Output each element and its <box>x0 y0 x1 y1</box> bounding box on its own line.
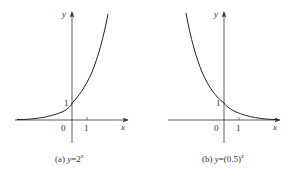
graph-a: y x 0 1 1 <box>15 9 128 143</box>
x-tick-label-b: 1 <box>236 123 241 133</box>
y-axis-label-a: y <box>61 9 66 19</box>
curve-exp-decay <box>186 13 278 120</box>
x-tick-label-a: 1 <box>84 123 89 133</box>
x-axis-label-a: x <box>120 122 125 132</box>
caption-b-exp: x <box>241 153 244 159</box>
origin-label-a: 0 <box>61 123 66 133</box>
caption-a-exp: x <box>81 153 84 159</box>
x-axis-label-b: x <box>272 122 277 132</box>
figure-canvas: y x 0 1 1 y x 0 1 1 <box>0 0 289 182</box>
y-intercept-label-b: 1 <box>216 98 221 108</box>
graph-b: y x 0 1 1 <box>168 9 280 143</box>
caption-a-prefix: (a) <box>55 154 67 164</box>
caption-b-prefix: (b) <box>202 154 215 164</box>
origin-label-b: 0 <box>214 123 219 133</box>
caption-b: (b) y=(0.5)x <box>202 153 244 164</box>
curve-exp-growth <box>17 14 108 120</box>
caption-b-eq: =(0.5) <box>219 154 241 164</box>
y-axis-label-b: y <box>213 9 218 19</box>
caption-a: (a) y=2x <box>55 153 84 164</box>
caption-a-eq: =2 <box>71 154 81 164</box>
y-intercept-label-a: 1 <box>64 98 69 108</box>
